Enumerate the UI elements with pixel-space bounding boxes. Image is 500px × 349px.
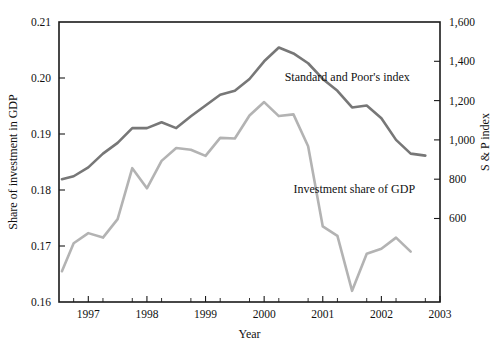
x-axis-tick-label: 2002: [370, 308, 393, 320]
chart-canvas: 1997199819992000200120022003 0.160.170.1…: [0, 0, 500, 349]
x-axis-tick-label: 2003: [429, 308, 452, 320]
x-axis-tick-label: 1999: [194, 308, 217, 320]
x-axis-tick-label: 2000: [253, 308, 276, 320]
y-axis-left-tick-label: 0.20: [31, 72, 51, 84]
y-axis-left-tick-label: 0.19: [31, 128, 51, 140]
y-axis-right-tick-label: 1,400: [449, 55, 475, 68]
x-axis-ticks: 1997199819992000200120022003: [77, 296, 452, 320]
data-series-group: [62, 48, 425, 291]
y-axis-right-tick-label: 1,200: [449, 95, 475, 108]
y-axis-right-tick-label: 800: [449, 173, 467, 185]
y-axis-left-tick-label: 0.17: [31, 240, 51, 252]
y-axis-left-tick-label: 0.21: [31, 16, 51, 28]
series-annotation-label: Investment share of GDP: [293, 182, 415, 196]
series-line: [62, 48, 425, 180]
y-axis-right-tick-label: 600: [449, 212, 467, 224]
series-annotation-label: Standard and Poor's index: [285, 70, 410, 84]
y-axis-left-title: Share of investment in GDP: [6, 94, 20, 230]
plot-frame: [59, 22, 440, 302]
x-axis-tick-label: 2001: [311, 308, 334, 320]
chart-figure: 1997199819992000200120022003 0.160.170.1…: [0, 0, 500, 349]
x-axis-tick-label: 1997: [77, 308, 100, 320]
x-axis-tick-label: 1998: [135, 308, 158, 320]
series-annotations: Standard and Poor's indexInvestment shar…: [285, 70, 416, 196]
y-axis-right-tick-label: 1,600: [449, 16, 475, 29]
axis-frame: [59, 22, 440, 302]
y-axis-left-tick-label: 0.18: [31, 184, 51, 196]
y-axis-right-title: S & P index: [478, 113, 492, 171]
y-axis-right-tick-label: 1,000: [449, 134, 475, 147]
y-axis-left-ticks: 0.160.170.180.190.200.21: [31, 16, 65, 308]
series-line: [62, 102, 411, 291]
x-axis-title: Year: [238, 327, 260, 341]
y-axis-left-tick-label: 0.16: [31, 296, 51, 308]
